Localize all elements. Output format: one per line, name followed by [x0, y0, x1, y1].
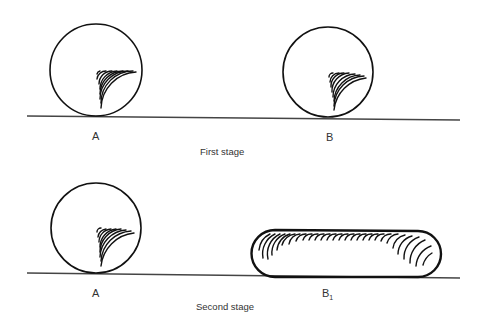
label-a-second-stage: A	[92, 287, 100, 299]
label-b-first-stage: B	[326, 131, 333, 143]
label-a-first-stage: A	[92, 130, 100, 142]
label-b1-second-stage: B1	[322, 287, 333, 301]
deformation-diagram: A B First stage	[0, 0, 480, 330]
caption-first-stage: First stage	[200, 146, 244, 157]
second-stage: A	[27, 183, 460, 312]
sphere-a-second-stage-icon	[51, 183, 141, 273]
first-stage: A B First stage	[27, 24, 460, 157]
sphere-a-first-stage-icon	[50, 24, 142, 116]
caption-second-stage: Second stage	[196, 301, 254, 312]
flattened-b1-icon	[252, 230, 442, 277]
sphere-b-first-stage-icon	[283, 27, 373, 117]
